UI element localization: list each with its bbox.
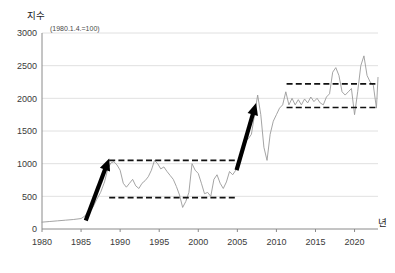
y-tick-label: 500	[22, 192, 37, 202]
y-tick-label: 0	[32, 224, 37, 234]
y-tick-label: 1500	[17, 126, 37, 136]
chart-subtitle: (1980.1.4.=100)	[50, 25, 100, 33]
trend-arrows-group	[86, 103, 258, 221]
x-tick-label: 2015	[305, 237, 325, 247]
y-axis-title: 지수	[27, 10, 45, 21]
x-tick-label: 2020	[345, 237, 365, 247]
gridlines-group	[42, 33, 378, 196]
x-tick-label: 1995	[149, 237, 169, 247]
first-rally-arrow-shaft	[86, 168, 106, 221]
chart-container: 050010001500200025003000 198019851990199…	[0, 0, 395, 273]
x-tick-label: 1990	[110, 237, 130, 247]
x-tick-label: 1980	[32, 237, 52, 247]
x-axis-tick-labels: 198019851990199520002005201020152020	[32, 229, 365, 247]
y-tick-label: 2500	[17, 61, 37, 71]
x-tick-label: 2000	[188, 237, 208, 247]
x-tick-label: 2010	[266, 237, 286, 247]
y-tick-label: 2000	[17, 94, 37, 104]
y-tick-label: 1000	[17, 159, 37, 169]
y-tick-label: 3000	[17, 28, 37, 38]
x-axis-title: 년	[378, 217, 387, 228]
y-axis-tick-labels: 050010001500200025003000	[17, 28, 37, 234]
index-line-chart: 050010001500200025003000 198019851990199…	[0, 0, 395, 273]
x-tick-label: 1985	[71, 237, 91, 247]
second-rally-arrow-shaft	[237, 113, 254, 171]
x-tick-label: 2005	[227, 237, 247, 247]
first-rally-arrow-head	[100, 158, 110, 171]
